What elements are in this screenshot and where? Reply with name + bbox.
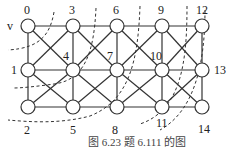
- node-7: [110, 63, 124, 77]
- node-label-0: 0: [24, 3, 30, 17]
- node-4: [66, 63, 80, 77]
- nodes: [21, 19, 209, 114]
- node-14: [195, 100, 209, 114]
- node-label-2: 2: [24, 123, 30, 137]
- start-marker-label: v: [7, 19, 13, 33]
- node-1: [21, 63, 35, 77]
- node-label-14: 14: [198, 122, 210, 136]
- dashed-cut-lines: [8, 6, 205, 130]
- node-label-13: 13: [214, 63, 226, 77]
- node-label-10: 10: [150, 49, 162, 63]
- node-13: [195, 63, 209, 77]
- node-label-12: 12: [196, 3, 208, 17]
- node-10: [155, 63, 169, 77]
- node-12: [195, 19, 209, 33]
- node-8: [110, 100, 124, 114]
- node-2: [21, 100, 35, 114]
- node-label-4: 4: [63, 49, 69, 63]
- node-5: [66, 100, 80, 114]
- node-3: [66, 19, 80, 33]
- node-label-8: 8: [112, 123, 118, 137]
- node-label-6: 6: [113, 3, 119, 17]
- node-label-5: 5: [70, 123, 76, 137]
- figure-caption: 图 6.23 题 6.111 的图: [88, 135, 186, 147]
- node-6: [110, 19, 124, 33]
- grid-graph-diagram: v 0 1 2 3 4 5 6 7 8 9 10 11 12 13 14 图 6…: [0, 0, 230, 147]
- node-label-11: 11: [156, 116, 168, 130]
- node-9: [155, 19, 169, 33]
- node-label-1: 1: [11, 63, 17, 77]
- node-label-7: 7: [107, 49, 113, 63]
- node-label-9: 9: [158, 3, 164, 17]
- node-label-3: 3: [69, 3, 75, 17]
- node-11: [155, 100, 169, 114]
- node-0: [21, 19, 35, 33]
